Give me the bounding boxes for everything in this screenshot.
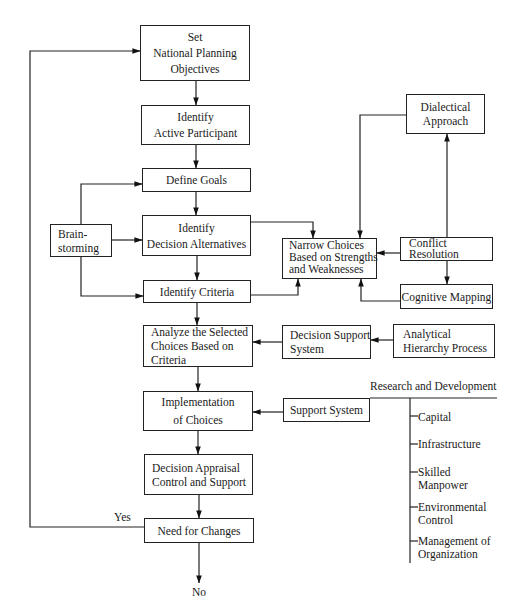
planning-flowchart: Set National Planning Objectives Identif…: [0, 0, 512, 612]
box-line: Support System: [290, 403, 363, 417]
brainstorming-box: Brain- storming: [50, 224, 112, 257]
yes-edge-label: Yes: [114, 511, 131, 524]
box-line: Analyze the Selected: [151, 325, 248, 339]
item-line: Skilled: [418, 466, 468, 479]
item-line: Infrastructure: [418, 438, 481, 450]
analytical-hierarchy-process-box: Analytical Hierarchy Process: [393, 324, 495, 358]
box-line: of Choices: [173, 413, 223, 427]
no-edge-label: No: [192, 586, 206, 599]
box-line: Decision Alternatives: [147, 237, 246, 251]
analyze-choices-box: Analyze the Selected Choices Based on Cr…: [143, 325, 253, 367]
identify-criteria-box: Identify Criteria: [143, 280, 251, 303]
box-line: Based on Strengths: [289, 251, 378, 263]
support-item-capital: Capital: [418, 411, 451, 424]
box-line: Set: [188, 30, 203, 44]
box-line: Cognitive Mapping: [402, 290, 492, 304]
need-for-changes-box: Need for Changes: [144, 518, 254, 543]
support-item-skilled-manpower: Skilled Manpower: [418, 466, 468, 492]
support-system-box: Support System: [283, 398, 370, 422]
box-line: Decision Appraisal: [152, 461, 240, 475]
box-line: Hierarchy Process: [403, 341, 487, 355]
cognitive-mapping-box: Cognitive Mapping: [400, 284, 493, 309]
item-line: Capital: [418, 411, 451, 423]
dialectical-approach-box: Dialectical Approach: [406, 94, 485, 134]
box-line: Criteria: [151, 353, 186, 367]
support-item-infrastructure: Infrastructure: [418, 438, 481, 451]
box-line: Resolution: [409, 249, 459, 260]
item-line: Environmental: [418, 501, 486, 514]
decision-support-system-box: Decision Support System: [282, 325, 371, 359]
define-goals-box: Define Goals: [142, 168, 251, 192]
support-item-environmental-control: Environmental Control: [418, 501, 486, 527]
item-line: Control: [418, 514, 486, 527]
identify-alternatives-box: Identify Decision Alternatives: [142, 215, 251, 256]
box-line: Approach: [423, 114, 468, 128]
box-line: Identify: [177, 110, 213, 124]
box-line: Narrow Choices: [289, 239, 364, 251]
set-objectives-box: Set National Planning Objectives: [140, 25, 250, 81]
box-line: Define Goals: [166, 173, 227, 187]
box-line: Implementation: [162, 395, 235, 409]
identify-participant-box: Identify Active Participant: [141, 105, 250, 145]
box-line: Active Participant: [154, 126, 237, 140]
box-line: storming: [58, 241, 99, 255]
implementation-box: Implementation of Choices: [143, 391, 253, 431]
decision-appraisal-box: Decision Appraisal Control and Support: [144, 454, 253, 495]
box-line: Decision Support: [290, 328, 370, 342]
conflict-resolution-box: Conflict Resolution: [400, 237, 493, 261]
item-line: Manpower: [418, 479, 468, 492]
box-line: Objectives: [170, 62, 219, 76]
box-line: Control and Support: [152, 475, 246, 489]
box-line: Need for Changes: [157, 524, 240, 538]
narrow-choices-box: Narrow Choices Based on Strengths and We…: [282, 238, 377, 279]
item-line: Organization: [418, 548, 491, 561]
box-line: Identify: [178, 221, 214, 235]
box-line: Choices Based on: [151, 339, 233, 353]
box-line: Dialectical: [421, 100, 471, 114]
box-line: Brain-: [58, 227, 87, 241]
research-development-label: Research and Development: [370, 380, 496, 393]
box-line: Analytical: [403, 327, 451, 341]
box-line: Identify Criteria: [160, 285, 234, 299]
box-line: and Weaknesses: [289, 263, 364, 275]
support-item-management-organization: Management of Organization: [418, 535, 491, 561]
box-line: System: [290, 342, 324, 356]
item-line: Management of: [418, 535, 491, 548]
box-line: National Planning: [153, 46, 236, 60]
